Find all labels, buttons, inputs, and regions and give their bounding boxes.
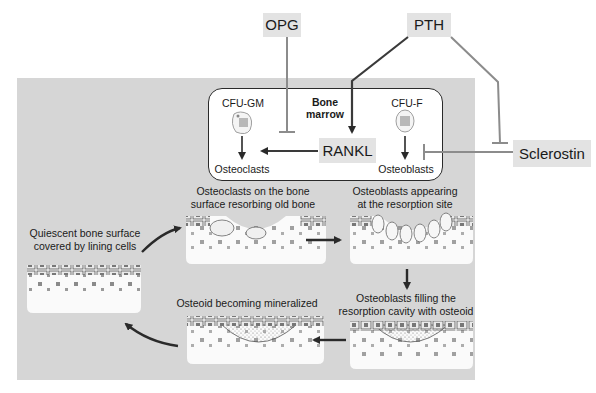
osteoclast-icon [246, 227, 266, 239]
sclerostin-inhibits-osteoblasts-line [424, 144, 513, 160]
diagram-graphics [0, 0, 596, 393]
cycle-arrow-mineralized-to-quiescent [126, 324, 178, 346]
opg-inhibits-osteoclasts-line [279, 37, 295, 132]
cfu-f-cell-icon [396, 110, 414, 132]
bone-block-quiescent [27, 265, 141, 313]
bone-block-resorbing [186, 216, 326, 264]
osteoblast-icon [414, 224, 426, 242]
osteoblast-icon [400, 225, 412, 243]
cfu-gm-cell-icon [232, 112, 251, 134]
osteoblast-icon [428, 220, 440, 238]
cycle-arrow-quiescent-to-resorbing [142, 228, 180, 252]
osteoclast-icon [210, 220, 234, 236]
osteoblast-icon [440, 213, 452, 231]
osteoblast-icon [372, 215, 384, 233]
bone-block-mineralized [187, 316, 324, 364]
bone-block-osteoblasts-appearing [350, 213, 473, 264]
pth-inhibits-sclerostin-line [451, 37, 508, 143]
osteoblast-icon [386, 222, 398, 240]
bone-block-osteoid-filling [350, 321, 473, 369]
